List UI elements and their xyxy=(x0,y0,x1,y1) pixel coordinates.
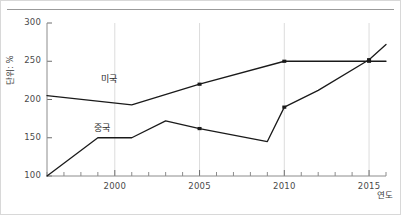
y-tick-label-300: 300 xyxy=(9,17,41,27)
series-line-중국 xyxy=(47,44,386,176)
x-tick-label-2000: 2000 xyxy=(97,181,133,191)
x-axis-title: 연도 xyxy=(377,188,393,200)
data-point-marker xyxy=(282,106,286,109)
y-tick-marks-group xyxy=(47,23,52,176)
chart-frame: 100150200250300 2000200520102015 미국중국 단위… xyxy=(0,0,401,215)
major-ticks-group xyxy=(115,170,369,176)
series-lines-group xyxy=(47,44,386,176)
gridlines-group xyxy=(115,23,369,176)
data-point-marker xyxy=(282,60,286,63)
data-point-marker xyxy=(367,58,371,61)
data-point-marker xyxy=(198,83,202,86)
minor-ticks-group xyxy=(47,172,386,176)
y-axis-title: 단위: % xyxy=(3,55,15,85)
data-point-marker xyxy=(198,127,202,130)
y-tick-label-200: 200 xyxy=(9,94,41,104)
x-tick-label-2010: 2010 xyxy=(266,181,302,191)
y-tick-label-100: 100 xyxy=(9,170,41,180)
y-tick-label-150: 150 xyxy=(9,132,41,142)
series-line-미국 xyxy=(47,61,386,105)
series-label-미국: 미국 xyxy=(101,72,117,85)
x-tick-label-2005: 2005 xyxy=(182,181,218,191)
series-label-중국: 중국 xyxy=(94,121,110,134)
